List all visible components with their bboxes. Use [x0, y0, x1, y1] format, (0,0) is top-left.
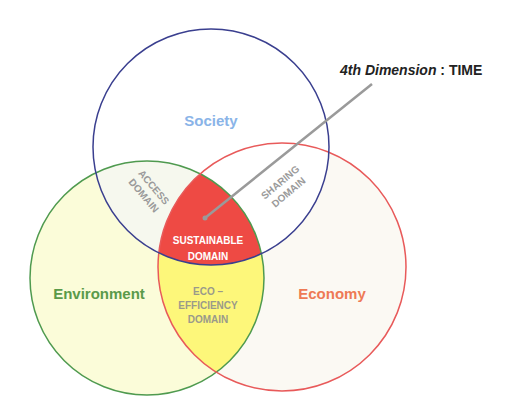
eco-efficiency-label-line3: DOMAIN [188, 314, 229, 325]
society-label: Society [184, 112, 238, 129]
sustainable-domain-label-line1: SUSTAINABLE [173, 235, 244, 246]
sustainable-domain-label-line2: DOMAIN [188, 251, 229, 262]
annotation-value: TIME [449, 62, 482, 78]
economy-label: Economy [298, 285, 366, 302]
eco-efficiency-label-line2: EFFICIENCY [178, 300, 238, 311]
eco-efficiency-label-line1: ECO – [193, 286, 223, 297]
time-dimension-annotation: 4th Dimension : TIME [340, 62, 482, 78]
annotation-separator: : [436, 62, 448, 78]
time-pointer-dot [203, 216, 208, 221]
environment-label: Environment [53, 285, 145, 302]
annotation-prefix: 4th Dimension [340, 62, 436, 78]
